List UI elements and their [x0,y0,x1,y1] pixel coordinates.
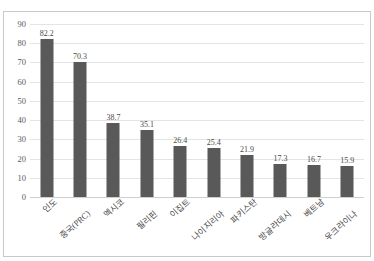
x-axis-category-label: 나이지리아 [190,209,225,242]
bar[interactable] [140,130,153,197]
bar-value-label: 26.4 [173,137,187,145]
x-axis-category-label: 필리핀 [135,209,159,231]
x-axis-category-label: 중국(PRC) [58,209,92,241]
bar-slot: 26.4 [164,24,197,197]
x-axis-category-label: 우크라이나 [324,209,359,242]
bar-slot: 15.9 [331,24,364,197]
bar[interactable] [74,62,87,197]
bar-slot: 17.3 [264,24,297,197]
bar-value-label: 82.2 [40,30,54,38]
x-axis-category-label: 방글라데시 [257,209,292,242]
chart-frame: 9080706050403020100 82.270.338.735.126.4… [3,11,371,257]
bar[interactable] [241,155,254,197]
bar-slot: 38.7 [97,24,130,197]
bar[interactable] [274,164,287,197]
x-axis-category-label: 베트남 [302,197,326,219]
x-axis-labels: 인도중국(PRC)멕시코필리핀이집트나이지리아파키스탄방글라데시베트남우크라이나 [30,197,364,255]
bar[interactable] [174,146,187,197]
bar-value-label: 16.7 [307,156,321,164]
bar-slot: 70.3 [63,24,96,197]
y-axis-tick-label: 30 [18,135,27,144]
y-axis-tick-label: 40 [18,116,27,125]
bar-slot: 35.1 [130,24,163,197]
y-axis-tick-label: 50 [18,97,27,106]
y-axis-tick-label: 70 [18,58,27,67]
bar-value-label: 15.9 [340,157,354,165]
bars-layer: 82.270.338.735.126.425.421.917.316.715.9 [30,24,364,197]
plot-area: 9080706050403020100 82.270.338.735.126.4… [30,24,364,197]
bar-value-label: 70.3 [73,53,87,61]
y-axis-tick-label: 0 [22,193,26,202]
y-axis-tick-label: 90 [18,20,27,29]
y-axis-tick-label: 20 [18,154,27,163]
x-axis-category-label: 인도 [41,197,59,214]
bar[interactable] [307,165,320,197]
bar[interactable] [207,148,220,197]
y-axis-tick-label: 60 [18,77,27,86]
chart-figure: 9080706050403020100 82.270.338.735.126.4… [0,0,374,261]
bar[interactable] [107,123,120,197]
bar-slot: 21.9 [230,24,263,197]
bar-value-label: 17.3 [273,155,287,163]
y-axis-tick-label: 80 [18,39,27,48]
bar-slot: 25.4 [197,24,230,197]
bar[interactable] [341,166,354,197]
bar-value-label: 21.9 [240,146,254,154]
x-axis-category-label: 이집트 [168,197,192,219]
x-axis-category-label: 멕시코 [102,197,126,219]
x-axis-category-label: 파키스탄 [229,197,258,225]
bar-value-label: 25.4 [207,139,221,147]
bar-value-label: 35.1 [140,121,154,129]
y-axis-tick-label: 10 [18,174,27,183]
bar-slot: 82.2 [30,24,63,197]
bar[interactable] [40,39,53,197]
bar-value-label: 38.7 [106,114,120,122]
bar-slot: 16.7 [297,24,330,197]
